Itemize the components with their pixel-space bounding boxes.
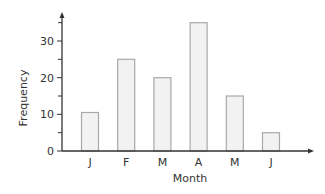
bar-2 (154, 78, 171, 151)
y-tick-label: 20 (40, 72, 54, 85)
x-tick-label: M (230, 156, 240, 169)
x-tick-label: M (158, 156, 168, 169)
y-axis-label: Frequency (17, 69, 30, 126)
x-axis: JFMAMJ (62, 149, 314, 170)
y-tick-label: 30 (40, 35, 54, 48)
bars-group (82, 23, 280, 151)
chart-svg: 0102030 JFMAMJ Frequency Month (0, 0, 325, 194)
bar-1 (118, 59, 135, 151)
y-tick-label: 0 (47, 145, 54, 158)
bar-0 (82, 113, 99, 152)
bar-chart: 0102030 JFMAMJ Frequency Month (0, 0, 325, 194)
bar-5 (263, 133, 280, 151)
x-tick-label: J (87, 156, 91, 169)
x-axis-label: Month (173, 172, 208, 185)
bar-4 (226, 96, 243, 151)
x-axis-arrow-icon (308, 149, 314, 154)
y-tick-label: 10 (40, 108, 54, 121)
y-axis: 0102030 (40, 12, 65, 158)
x-tick-label: J (268, 156, 272, 169)
x-tick-label: F (123, 156, 129, 169)
y-axis-arrow-icon (60, 12, 65, 18)
bar-3 (190, 23, 207, 151)
x-tick-label: A (195, 156, 203, 169)
